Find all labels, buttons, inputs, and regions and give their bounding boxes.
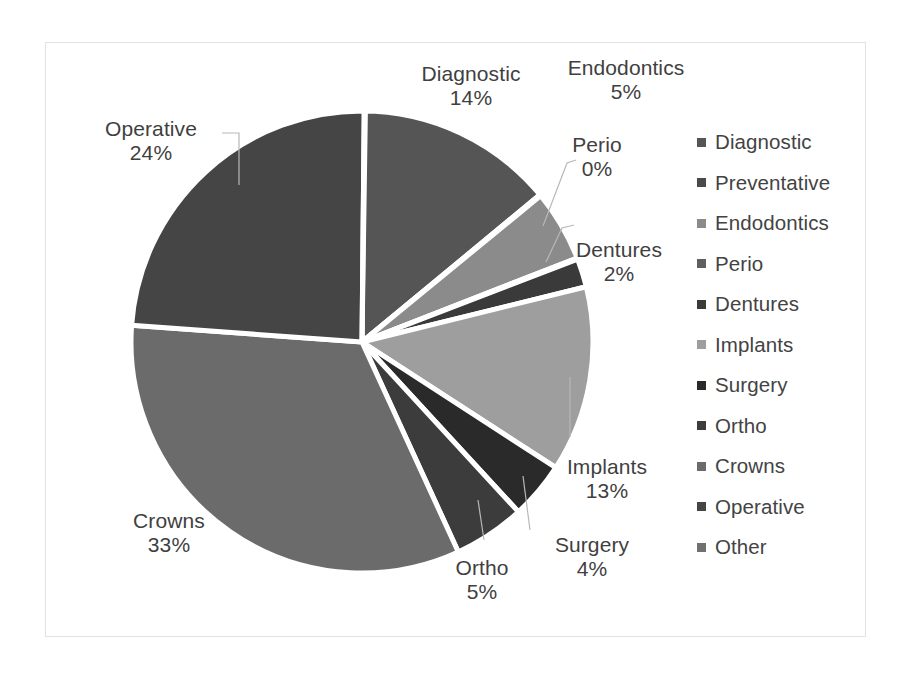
slice-label-surgery-name: Surgery	[555, 533, 629, 556]
legend-swatch-icon	[697, 138, 706, 147]
legend-item-label: Dentures	[715, 292, 799, 316]
slice-label-endodontics-name: Endodontics	[568, 56, 685, 79]
slice-label-ortho: Ortho 5%	[434, 556, 530, 603]
legend-swatch-icon	[697, 340, 706, 349]
legend-item[interactable]: Operative	[697, 487, 847, 528]
legend-swatch-icon	[697, 502, 706, 511]
slice-label-perio-name: Perio	[572, 133, 622, 156]
legend-item-label: Preventative	[715, 171, 830, 195]
legend-item[interactable]: Dentures	[697, 284, 847, 325]
slice-label-surgery-pct: 4%	[537, 557, 647, 581]
slice-label-operative: Operative 24%	[84, 117, 218, 164]
slice-label-perio-pct: 0%	[549, 157, 645, 181]
legend-item[interactable]: Ortho	[697, 406, 847, 447]
slice-label-surgery: Surgery 4%	[537, 533, 647, 580]
slice-label-dentures: Dentures 2%	[551, 238, 687, 285]
legend-swatch-icon	[697, 421, 706, 430]
slice-label-diagnostic-name: Diagnostic	[421, 62, 520, 85]
slice-label-ortho-pct: 5%	[434, 580, 530, 604]
slice-label-implants: Implants 13%	[541, 455, 673, 502]
slice-label-ortho-name: Ortho	[455, 556, 508, 579]
pie-chart-plot-area: Diagnostic 14% Endodontics 5% Perio 0% D…	[0, 0, 908, 677]
legend-item-label: Ortho	[715, 414, 767, 438]
legend-item-label: Perio	[715, 252, 763, 276]
legend-swatch-icon	[697, 543, 706, 552]
legend-item[interactable]: Implants	[697, 325, 847, 366]
legend-item[interactable]: Preventative	[697, 163, 847, 204]
slice-label-endodontics-pct: 5%	[551, 80, 701, 104]
slice-label-operative-pct: 24%	[84, 141, 218, 165]
legend-swatch-icon	[697, 300, 706, 309]
legend-swatch-icon	[697, 219, 706, 228]
slice-label-perio: Perio 0%	[549, 133, 645, 180]
slice-label-dentures-name: Dentures	[576, 238, 662, 261]
slice-label-crowns-name: Crowns	[133, 509, 205, 532]
slice-label-endodontics: Endodontics 5%	[551, 56, 701, 103]
slice-label-crowns-pct: 33%	[108, 533, 230, 557]
legend-item[interactable]: Diagnostic	[697, 122, 847, 163]
legend-item-label: Diagnostic	[715, 130, 812, 154]
slice-label-operative-name: Operative	[105, 117, 197, 140]
legend-swatch-icon	[697, 381, 706, 390]
legend-item[interactable]: Surgery	[697, 365, 847, 406]
chart-legend: DiagnosticPreventativeEndodonticsPerioDe…	[697, 122, 847, 568]
legend-item-label: Operative	[715, 495, 805, 519]
legend-swatch-icon	[697, 462, 706, 471]
legend-swatch-icon	[697, 178, 706, 187]
pie-slice-group	[131, 111, 593, 573]
pie-slice-other[interactable]	[362, 111, 365, 342]
legend-item-label: Endodontics	[715, 211, 829, 235]
legend-item[interactable]: Perio	[697, 244, 847, 285]
legend-item-label: Implants	[715, 333, 793, 357]
legend-item-label: Other	[715, 535, 767, 559]
legend-item-label: Surgery	[715, 373, 787, 397]
slice-label-diagnostic: Diagnostic 14%	[399, 62, 543, 109]
legend-item-label: Crowns	[715, 454, 785, 478]
slice-label-diagnostic-pct: 14%	[399, 86, 543, 110]
slice-label-dentures-pct: 2%	[551, 262, 687, 286]
legend-swatch-icon	[697, 259, 706, 268]
legend-item[interactable]: Crowns	[697, 446, 847, 487]
slice-label-implants-pct: 13%	[541, 479, 673, 503]
legend-item[interactable]: Endodontics	[697, 203, 847, 244]
slice-label-crowns: Crowns 33%	[108, 509, 230, 556]
slice-label-implants-name: Implants	[567, 455, 647, 478]
legend-item[interactable]: Other	[697, 527, 847, 568]
